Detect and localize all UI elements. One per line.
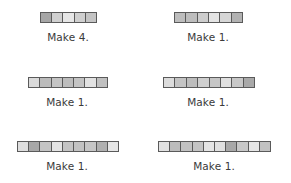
cube-cell — [29, 78, 40, 87]
cube-cell — [52, 13, 63, 22]
cube-cell — [210, 78, 221, 87]
cube-cell — [86, 13, 96, 22]
exercise-label: Make 4. — [47, 31, 89, 43]
exercise-label: Make 1. — [193, 160, 235, 172]
cube-cell — [18, 142, 29, 151]
cube-cell — [63, 142, 74, 151]
cube-cell — [193, 142, 204, 151]
cube-cell — [186, 13, 197, 22]
cube-train-bar — [163, 77, 255, 88]
cube-cell — [85, 78, 96, 87]
cube-train-bar — [40, 12, 97, 23]
cube-cell — [204, 142, 215, 151]
cube-cell — [52, 142, 63, 151]
cube-cell — [175, 78, 186, 87]
exercise-label: Make 1. — [187, 96, 229, 108]
cube-cell — [97, 78, 107, 87]
cube-train-bar — [158, 141, 271, 152]
cube-cell — [170, 142, 181, 151]
cube-cell — [74, 142, 85, 151]
cube-cell — [63, 78, 74, 87]
exercise-label: Make 1. — [187, 31, 229, 43]
cube-cell — [244, 78, 254, 87]
cube-train-bar — [28, 77, 108, 88]
cube-cell — [198, 13, 209, 22]
cube-cell — [41, 13, 52, 22]
cube-cell — [181, 142, 192, 151]
cube-cell — [63, 13, 74, 22]
cube-train-bar — [174, 12, 243, 23]
cube-cell — [198, 78, 209, 87]
cube-cell — [159, 142, 170, 151]
cube-cell — [40, 142, 51, 151]
exercise-label: Make 1. — [46, 96, 88, 108]
cube-cell — [40, 78, 51, 87]
cube-cell — [29, 142, 40, 151]
cube-cell — [175, 13, 186, 22]
cube-cell — [97, 142, 108, 151]
cube-cell — [52, 78, 63, 87]
cube-cell — [108, 142, 118, 151]
cube-cell — [164, 78, 175, 87]
cube-cell — [237, 142, 248, 151]
cube-cell — [75, 13, 86, 22]
cube-cell — [226, 142, 237, 151]
cube-cell — [85, 142, 96, 151]
cube-cell — [249, 142, 260, 151]
cube-cell — [260, 142, 270, 151]
cube-cell — [232, 78, 243, 87]
cube-cell — [74, 78, 85, 87]
cube-cell — [209, 13, 220, 22]
cube-cell — [221, 78, 232, 87]
cube-cell — [187, 78, 198, 87]
cube-cell — [215, 142, 226, 151]
cube-cell — [220, 13, 231, 22]
cube-cell — [232, 13, 242, 22]
cube-train-bar — [17, 141, 119, 152]
exercise-label: Make 1. — [46, 160, 88, 172]
